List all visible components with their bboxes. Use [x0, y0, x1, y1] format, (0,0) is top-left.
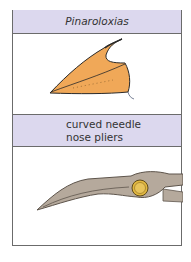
pliers-panel [13, 147, 181, 246]
pliers-illustration-icon [13, 147, 183, 246]
beak-illustration-icon [13, 34, 183, 114]
beak-panel [13, 34, 181, 114]
comparison-card: Pinaroloxias curved needle nose pliers [12, 10, 182, 246]
bird-name-header: Pinaroloxias [13, 10, 181, 34]
tool-name-line1: curved needle [66, 118, 181, 131]
tool-name-header: curved needle nose pliers [13, 114, 181, 147]
bird-name-label: Pinaroloxias [65, 15, 128, 27]
tool-name-line2: nose pliers [66, 131, 181, 144]
